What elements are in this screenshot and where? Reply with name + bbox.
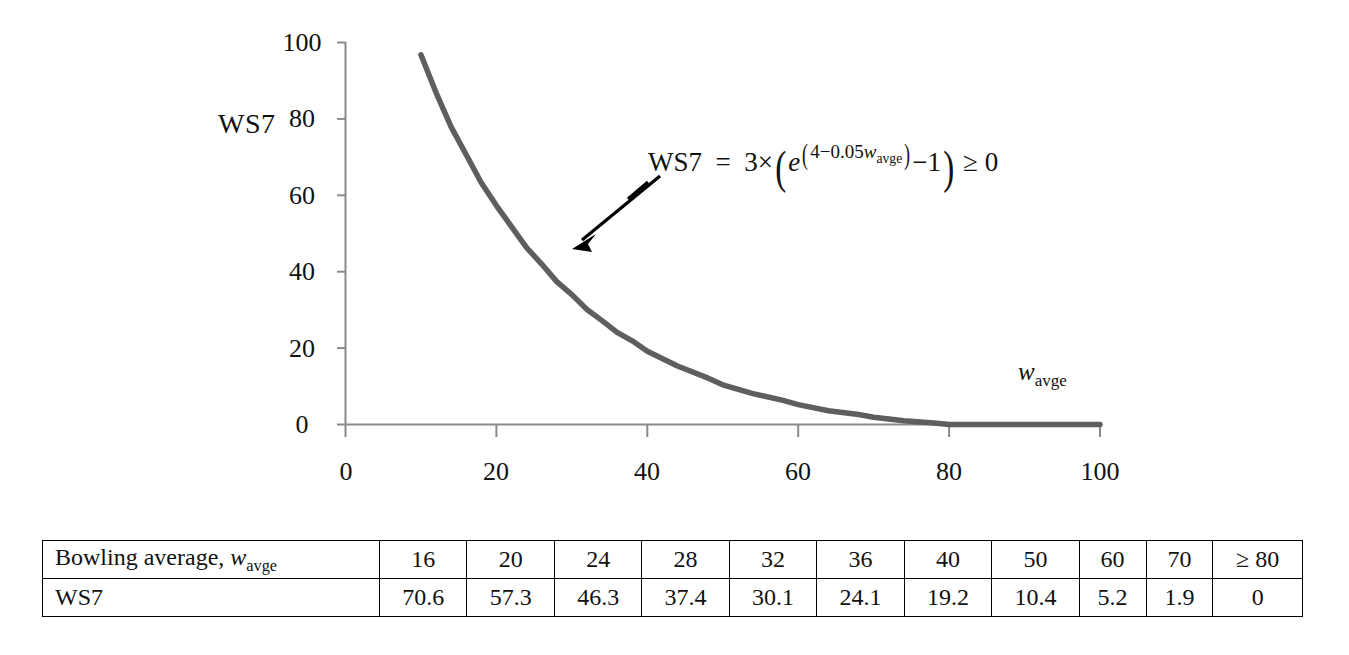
formula-equals: = — [716, 147, 731, 177]
y-tick-label-60: 60 — [278, 181, 326, 211]
x-tick-label-0: 0 — [321, 457, 371, 487]
row-header-ws7: WS7 — [43, 579, 380, 617]
y-tick-label-20: 20 — [278, 334, 326, 364]
table-row-ws7: WS7 70.6 57.3 46.3 37.4 30.1 24.1 19.2 1… — [43, 579, 1303, 617]
row-header-variable: w — [230, 544, 246, 570]
chart-figure: WS7 wavge 100 80 60 40 20 0 0 20 40 60 8… — [0, 0, 1349, 520]
formula-exponent: (4−0.05wavge) — [800, 141, 912, 162]
x-tick-label-40: 40 — [622, 457, 672, 487]
header-cell-0: 16 — [380, 541, 467, 579]
formula-exponent-var: w — [864, 141, 877, 162]
x-axis-title: wavge — [1018, 358, 1067, 391]
header-cell-8: 60 — [1079, 541, 1146, 579]
ws7-cell-1: 57.3 — [467, 579, 554, 617]
formula-open-paren: ( — [775, 141, 786, 194]
formula-coefficient: 3 — [744, 147, 758, 177]
ws7-cell-5: 24.1 — [817, 579, 904, 617]
ws7-cell-9: 1.9 — [1146, 579, 1213, 617]
ws7-cell-8: 5.2 — [1079, 579, 1146, 617]
header-cell-1: 20 — [467, 541, 554, 579]
y-tick-label-40: 40 — [278, 257, 326, 287]
formula-ge-zero: ≥ 0 — [963, 147, 998, 177]
ws7-cell-2: 46.3 — [554, 579, 641, 617]
ws7-cell-3: 37.4 — [642, 579, 729, 617]
header-cell-9: 70 — [1146, 541, 1213, 579]
header-cell-7: 50 — [992, 541, 1079, 579]
x-axis-title-base: w — [1018, 358, 1035, 385]
row-header-bowling-average: Bowling average, wavge — [43, 541, 380, 579]
formula-exponent-var-subscript: avge — [876, 151, 902, 166]
x-tick-label-80: 80 — [924, 457, 974, 487]
header-cell-5: 36 — [817, 541, 904, 579]
header-cell-2: 24 — [554, 541, 641, 579]
formula-lhs: WS7 — [648, 147, 702, 177]
y-tick-label-80: 80 — [278, 104, 326, 134]
header-cell-3: 28 — [642, 541, 729, 579]
x-tick-label-20: 20 — [471, 457, 521, 487]
ws7-curve — [421, 55, 1100, 425]
x-tick-label-100: 100 — [1075, 457, 1125, 487]
formula-close-paren: ) — [943, 141, 954, 194]
formula-times: × — [758, 147, 773, 177]
formula-exponent-open-paren: ( — [802, 137, 808, 171]
formula-e: e — [788, 147, 800, 177]
formula-annotation: WS7 = 3×(e(4−0.05wavge)−1) ≥ 0 — [648, 140, 998, 194]
y-axis-title: WS7 — [218, 108, 276, 140]
ws7-cell-0: 70.6 — [380, 579, 467, 617]
header-cell-6: 40 — [904, 541, 991, 579]
y-tick-label-0: 0 — [278, 410, 326, 440]
row-header-bowling-average-text: Bowling average, — [55, 544, 230, 570]
ws7-cell-4: 30.1 — [729, 579, 816, 617]
y-tick-label-100: 100 — [278, 28, 326, 58]
table-row-bowling-average: Bowling average, wavge 16 20 24 28 32 36… — [43, 541, 1303, 579]
header-cell-4: 32 — [729, 541, 816, 579]
row-header-variable-subscript: avge — [246, 555, 277, 574]
x-axis-title-subscript: avge — [1035, 371, 1067, 390]
header-cell-10: ≥ 80 — [1213, 541, 1303, 579]
x-tick-label-60: 60 — [773, 457, 823, 487]
ws7-lookup-table: Bowling average, wavge 16 20 24 28 32 36… — [42, 540, 1303, 617]
ws7-cell-6: 19.2 — [904, 579, 991, 617]
ws7-cell-10: 0 — [1213, 579, 1303, 617]
annotation-arrow — [572, 176, 660, 252]
formula-minus-one: −1 — [912, 147, 941, 177]
ws7-cell-7: 10.4 — [992, 579, 1079, 617]
formula-exponent-close-paren: ) — [904, 137, 910, 171]
formula-exponent-body: 4−0.05 — [810, 141, 863, 162]
chart-plot-area — [0, 0, 1349, 520]
